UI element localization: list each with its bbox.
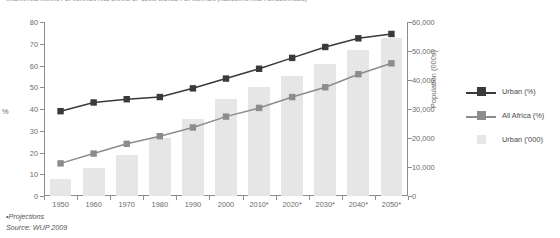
x-tick-label: 2040* (349, 200, 368, 209)
y-tick-label-left: 70 (0, 39, 38, 48)
series-marker (57, 160, 63, 166)
series-marker (124, 141, 130, 147)
footnote-projections: •Projections (6, 211, 67, 222)
y-tick-label-left: 20 (0, 148, 38, 157)
x-tick (408, 196, 409, 200)
series-marker (124, 96, 130, 102)
legend-label: Urban ('000) (502, 135, 543, 144)
x-tick (375, 196, 376, 200)
chart-figure: URBAN AND RURAL POPULATION AND SHARE OF … (0, 0, 560, 238)
x-tick-label: 1960 (85, 200, 101, 209)
series-marker (223, 75, 229, 81)
chart-footnotes: •Projections Source: WUP 2009 (6, 211, 67, 233)
legend-square-marker-icon (477, 87, 486, 96)
y-tick-label-left: 80 (0, 18, 38, 27)
x-tick (176, 196, 177, 200)
y-tick-label-right: 20,000 (412, 134, 452, 143)
x-tick-label: 2050* (382, 200, 401, 209)
chart-title: URBAN AND RURAL POPULATION AND SHARE OF … (6, 0, 426, 3)
x-tick (44, 196, 45, 200)
legend-label: Urban (%) (502, 87, 536, 96)
series-marker (223, 113, 229, 119)
series-marker (157, 94, 163, 100)
y-axis-right-title: Population (000s) (429, 50, 438, 108)
series-marker (90, 99, 96, 105)
series-marker (355, 71, 361, 77)
x-tick-label: 2030* (316, 200, 335, 209)
series-marker (90, 150, 96, 156)
x-tick-label: 2000 (218, 200, 234, 209)
y-tick-label-right: 60,000 (412, 18, 452, 27)
series-marker (388, 31, 394, 37)
series-marker (289, 94, 295, 100)
series-line (61, 34, 392, 111)
series-marker (322, 44, 328, 50)
x-tick (209, 196, 210, 200)
series-marker (289, 55, 295, 61)
series-marker (322, 84, 328, 90)
legend-square-marker-icon (477, 111, 486, 120)
x-tick (342, 196, 343, 200)
y-tick-label-left: 50 (0, 83, 38, 92)
series-marker (388, 60, 394, 66)
y-tick-label-right: 10,000 (412, 163, 452, 172)
footnote-source: Source: WUP 2009 (6, 222, 67, 233)
series-marker (256, 66, 262, 72)
x-tick-label: 1990 (185, 200, 201, 209)
x-tick-label: 1980 (152, 200, 168, 209)
x-tick (110, 196, 111, 200)
x-tick-label: 1970 (118, 200, 134, 209)
x-tick-label: 2010* (249, 200, 268, 209)
legend-label: All Africa (%) (502, 111, 544, 120)
y-tick-label-left: 10 (0, 170, 38, 179)
x-tick-label: 2020* (283, 200, 302, 209)
y-tick-label-right: 0 (412, 192, 452, 201)
y-tick-label-left: 0 (0, 192, 38, 201)
legend-swatch-icon (477, 135, 486, 144)
x-tick (309, 196, 310, 200)
x-tick (77, 196, 78, 200)
y-axis-left-title: % (2, 107, 9, 116)
series-marker (355, 35, 361, 41)
series-marker (157, 133, 163, 139)
line-series-overlay (44, 22, 408, 196)
y-tick-label-left: 60 (0, 61, 38, 70)
series-marker (57, 108, 63, 114)
series-marker (190, 124, 196, 130)
plot-area: 01020304050607080 010,00020,00030,00040,… (44, 22, 408, 196)
x-tick-label: 1950 (52, 200, 68, 209)
series-marker (256, 105, 262, 111)
series-marker (190, 85, 196, 91)
x-tick (276, 196, 277, 200)
x-tick (243, 196, 244, 200)
x-tick (143, 196, 144, 200)
y-tick-label-left: 30 (0, 126, 38, 135)
